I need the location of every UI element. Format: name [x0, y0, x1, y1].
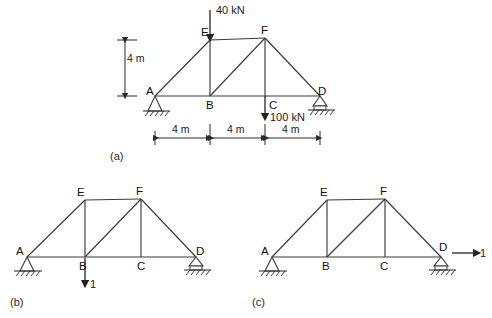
panel-a-dimension-CD-label: 4 m — [282, 123, 300, 135]
panel-c-node-label-E: E — [320, 186, 328, 198]
panel-b-truss-members — [27, 199, 196, 257]
panel-c: A B C D E F — [252, 185, 486, 308]
panel-a-node-label-D: D — [318, 85, 326, 97]
panel-a-caption: (a) — [110, 150, 123, 162]
panel-a-support-pinned-A — [143, 96, 170, 116]
panel-c-node-label-B: B — [322, 260, 330, 272]
panel-b: A B C D E F — [10, 185, 211, 308]
panel-c-unit-load: 1 — [452, 247, 486, 259]
member-BF-diagonal — [327, 199, 385, 257]
panel-a-support-roller-D — [308, 96, 335, 115]
panel-a-node-label-B: B — [206, 99, 214, 111]
panel-a-dimension-horizontal: 4 m 4 m 4 m — [155, 123, 320, 145]
panel-c-node-label-A: A — [261, 245, 269, 257]
panel-a-node-label-E: E — [201, 26, 209, 38]
panel-a-load-label-40kN: 40 kN — [216, 4, 245, 16]
panel-c-node-label-F: F — [380, 185, 387, 197]
panel-b-node-label-E: E — [77, 186, 85, 198]
panel-c-support-roller-D — [429, 257, 456, 275]
panel-a-load-label-100kN: 100 kN — [270, 111, 305, 123]
member-BF-diagonal — [85, 199, 141, 257]
panel-a-dimension-BC-label: 4 m — [227, 123, 245, 135]
panel-c-node-label-C: C — [380, 260, 388, 272]
member-FD — [385, 199, 441, 257]
panel-a-load-40kN: 40 kN — [210, 4, 245, 38]
panel-a-node-label-F: F — [261, 24, 268, 36]
member-FD — [265, 38, 320, 96]
panel-a-dimension-AB-label: 4 m — [172, 123, 190, 135]
panel-a-node-label-C: C — [269, 99, 277, 111]
panel-a-dimension-vertical-label: 4 m — [127, 52, 145, 64]
panel-b-support-pinned-A — [14, 257, 42, 276]
panel-c-truss-members — [272, 199, 441, 257]
member-BF-diagonal — [210, 38, 265, 96]
panel-a-dimension-vertical: 4 m — [117, 40, 145, 96]
panel-a: A B C D E F — [110, 4, 335, 162]
panel-b-caption: (b) — [10, 296, 23, 308]
panel-c-unit-load-label: 1 — [480, 247, 486, 259]
panel-b-unit-load-label: 1 — [90, 278, 96, 290]
panel-b-node-label-B: B — [79, 260, 87, 272]
panel-c-node-label-D: D — [439, 241, 447, 253]
member-AE — [27, 200, 85, 257]
member-AE — [272, 200, 327, 257]
panel-a-truss-members — [155, 38, 320, 96]
panel-b-node-label-A: A — [16, 245, 24, 257]
truss-figure: A B C D E F — [0, 0, 492, 318]
member-EF-top-chord — [85, 199, 141, 200]
panel-b-node-label-D: D — [196, 245, 204, 257]
panel-c-support-pinned-A — [259, 257, 287, 276]
member-AE — [155, 40, 210, 96]
panel-c-caption: (c) — [252, 296, 265, 308]
member-FD — [141, 199, 196, 257]
member-EF-top-chord — [327, 199, 385, 200]
panel-b-support-roller-D — [184, 257, 211, 275]
panel-a-node-label-A: A — [146, 85, 154, 97]
member-EF-top-chord — [210, 38, 265, 40]
panel-b-node-label-C: C — [137, 260, 145, 272]
panel-b-node-label-F: F — [136, 185, 143, 197]
